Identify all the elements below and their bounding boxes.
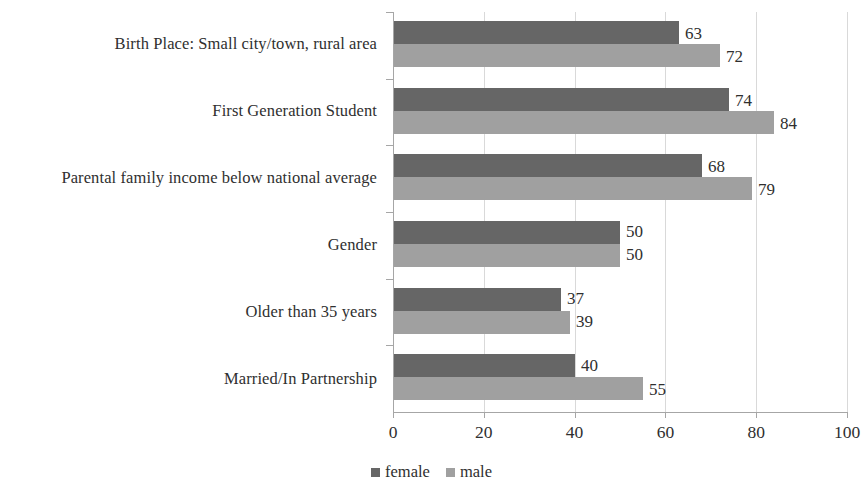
bar-value-female-birth-place: 63: [685, 25, 702, 42]
bar-female-gender[interactable]: [393, 221, 620, 244]
x-tick-20: [484, 412, 485, 418]
bar-group-gender: 50 50: [393, 212, 847, 279]
x-tick-label-40: 40: [566, 422, 584, 443]
bar-value-female-gender: 50: [626, 223, 643, 240]
x-tick-label-20: 20: [475, 422, 493, 443]
x-tick-label-100: 100: [834, 422, 860, 443]
bar-male-parental-income[interactable]: [393, 177, 752, 200]
y-axis-line: [393, 12, 394, 413]
y-tick-5: [386, 345, 393, 346]
x-tick-40: [575, 412, 576, 418]
bar-group-birth-place: 63 72: [393, 12, 847, 79]
bar-value-male-married: 55: [649, 381, 666, 398]
bar-male-birth-place[interactable]: [393, 44, 720, 67]
bar-chart: Birth Place: Small city/town, rural area…: [0, 0, 863, 490]
category-label-married: Married/In Partnership: [0, 370, 377, 388]
bar-value-female-parental-income: 68: [708, 158, 725, 175]
category-axis-labels: Birth Place: Small city/town, rural area…: [0, 12, 385, 412]
bar-male-gender[interactable]: [393, 244, 620, 267]
category-label-gender: Gender: [0, 236, 377, 254]
bar-male-older-than-35[interactable]: [393, 311, 570, 334]
plot-area: 63 72 74 84 68 79 50 50 37: [393, 12, 847, 412]
bar-male-married[interactable]: [393, 377, 643, 400]
bar-female-older-than-35[interactable]: [393, 288, 561, 311]
legend-item-male[interactable]: male: [446, 464, 492, 481]
bar-value-male-older-than-35: 39: [576, 313, 593, 330]
bar-value-male-birth-place: 72: [726, 48, 743, 65]
x-tick-label-80: 80: [747, 422, 765, 443]
bar-value-male-parental-income: 79: [758, 181, 775, 198]
legend-item-female[interactable]: female: [371, 464, 430, 481]
bar-group-first-generation: 74 84: [393, 79, 847, 146]
category-label-first-generation: First Generation Student: [0, 102, 377, 120]
category-label-birth-place: Birth Place: Small city/town, rural area: [0, 35, 377, 53]
bar-value-female-first-generation: 74: [735, 92, 752, 109]
bar-male-first-generation[interactable]: [393, 111, 774, 134]
y-tick-2: [386, 145, 393, 146]
x-tick-80: [756, 412, 757, 418]
bar-female-parental-income[interactable]: [393, 154, 702, 177]
legend-label-female: female: [385, 464, 430, 481]
legend-label-male: male: [460, 464, 492, 481]
y-tick-1: [386, 79, 393, 80]
bar-group-parental-income: 68 79: [393, 145, 847, 212]
bar-female-birth-place[interactable]: [393, 21, 679, 44]
bar-group-married: 40 55: [393, 345, 847, 412]
x-axis-tick-labels: 0 20 40 60 80 100: [393, 422, 848, 448]
category-label-older-than-35: Older than 35 years: [0, 303, 377, 321]
x-tick-0: [393, 412, 394, 418]
x-axis-line: [393, 412, 848, 413]
legend-swatch-male-icon: [446, 468, 455, 477]
x-tick-100: [847, 412, 848, 418]
bar-female-married[interactable]: [393, 354, 575, 377]
y-tick-top: [386, 12, 393, 13]
x-tick-label-0: 0: [389, 422, 398, 443]
y-tick-3: [386, 212, 393, 213]
x-tick-label-60: 60: [657, 422, 675, 443]
bar-group-older-than-35: 37 39: [393, 279, 847, 346]
bar-value-male-gender: 50: [626, 246, 643, 263]
gridline-100: [847, 12, 848, 412]
chart-legend: female male: [0, 464, 863, 481]
legend-swatch-female-icon: [371, 468, 380, 477]
x-tick-60: [665, 412, 666, 418]
bar-female-first-generation[interactable]: [393, 88, 729, 111]
bar-value-female-married: 40: [581, 357, 598, 374]
category-label-parental-income: Parental family income below national av…: [0, 169, 377, 187]
bar-value-male-first-generation: 84: [780, 115, 797, 132]
bar-value-female-older-than-35: 37: [567, 290, 584, 307]
y-tick-4: [386, 279, 393, 280]
